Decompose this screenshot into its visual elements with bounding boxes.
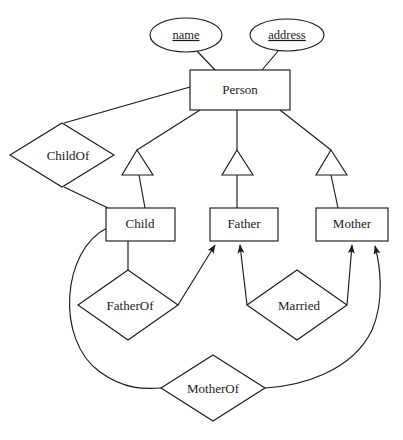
isa-triangle-mother (316, 150, 347, 175)
edge-married-to-father (240, 245, 247, 305)
relationship-label-married: Married (278, 298, 320, 313)
entity-label-child: Child (126, 216, 155, 231)
edge-address-to-person (262, 50, 279, 70)
entity-label-person: Person (222, 82, 258, 97)
entity-label-father: Father (227, 216, 261, 231)
edge-person-to-isa-child (137, 110, 200, 150)
entity-label-mother: Mother (333, 216, 372, 231)
relationship-label-childof: ChildOf (47, 148, 90, 163)
attribute-label-name: name (172, 28, 200, 42)
edge-person-to-childof (64, 87, 190, 123)
er-diagram-canvas: name address Person Child Father Mother … (0, 0, 403, 440)
relationship-label-motherof: MotherOf (187, 381, 240, 396)
edge-name-to-person (196, 50, 215, 70)
edge-married-to-mother (347, 245, 352, 305)
edge-childof-to-child (64, 187, 108, 208)
relationship-label-fatherof: FatherOf (107, 298, 155, 313)
edge-fatherof-to-father (178, 245, 215, 305)
edge-isa-mother-to-mother (331, 175, 338, 208)
edge-person-to-isa-mother (280, 110, 331, 150)
isa-triangle-father (222, 150, 253, 175)
edge-isa-child-to-child (139, 175, 145, 208)
isa-triangle-child (122, 150, 153, 175)
attribute-label-address: address (268, 28, 306, 42)
er-diagram-svg: name address Person Child Father Mother … (0, 0, 403, 440)
